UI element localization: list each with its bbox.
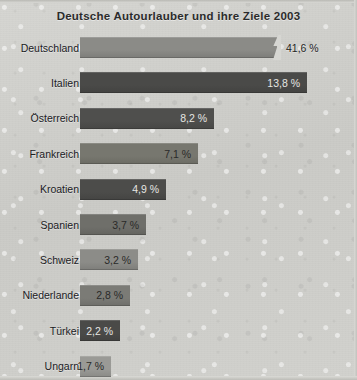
bar: 2,2 % — [80, 320, 120, 341]
bar-value-label: 1,7 % — [77, 360, 104, 372]
category-label: Ungarn — [0, 360, 79, 372]
bar-row: Schweiz3,2 % — [0, 249, 357, 270]
bar-value-label: 2,8 % — [96, 289, 123, 301]
bar: 1,7 % — [80, 356, 111, 377]
bar-row: Niederlande2,8 % — [0, 285, 357, 306]
bar-value-label: 4,9 % — [132, 183, 159, 195]
bar-row: Italien13,8 % — [0, 72, 357, 93]
frame-border-bottom — [0, 376, 357, 380]
bar-row: Österreich8,2 % — [0, 108, 357, 129]
category-label: Türkei — [0, 325, 79, 337]
category-label: Deutschland — [0, 42, 79, 54]
bar: 8,2 % — [80, 108, 214, 129]
bar: 2,8 % — [80, 285, 130, 306]
plot-area: Deutschland41,6 %Italien13,8 %Österreich… — [0, 33, 357, 373]
bar-row: Deutschland41,6 % — [0, 37, 357, 58]
bar-row: Türkei2,2 % — [0, 320, 357, 341]
chart-figure: Deutsche Autourlauber und ihre Ziele 200… — [0, 0, 357, 380]
bar-value-label: 7,1 % — [164, 148, 191, 160]
bar-value-label: 13,8 % — [267, 77, 300, 89]
category-label: Spanien — [0, 219, 79, 231]
bar-value-label: 3,2 % — [104, 254, 131, 266]
category-label: Frankreich — [0, 148, 79, 160]
category-label: Italien — [0, 77, 79, 89]
bar-row: Spanien3,7 % — [0, 214, 357, 235]
bar: 41,6 % — [80, 37, 277, 58]
bar: 7,1 % — [80, 143, 198, 164]
category-label: Schweiz — [0, 254, 79, 266]
bar: 4,9 % — [80, 179, 166, 200]
bar: 13,8 % — [80, 72, 307, 93]
bar-row: Frankreich7,1 % — [0, 143, 357, 164]
bar-value-label: 8,2 % — [180, 112, 207, 124]
bar-value-label: 41,6 % — [286, 42, 319, 54]
bar-value-label: 2,2 % — [86, 325, 113, 337]
bar: 3,2 % — [80, 249, 138, 270]
frame-border-top — [0, 0, 357, 3]
category-label: Kroatien — [0, 183, 79, 195]
category-label: Niederlande — [0, 289, 79, 301]
bar-row: Kroatien4,9 % — [0, 179, 357, 200]
chart-title: Deutsche Autourlauber und ihre Ziele 200… — [0, 10, 357, 22]
bar-row: Ungarn1,7 % — [0, 356, 357, 377]
axis-break-icon — [272, 35, 281, 60]
category-label: Österreich — [0, 112, 79, 124]
bar-value-label: 3,7 % — [112, 219, 139, 231]
bar: 3,7 % — [80, 214, 146, 235]
